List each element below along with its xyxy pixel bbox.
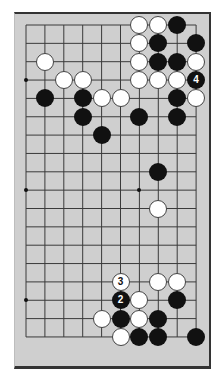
white-stone: [93, 310, 111, 328]
black-stone: 2: [112, 291, 130, 309]
white-stone: [55, 71, 73, 89]
black-stone: [187, 328, 205, 346]
black-stone: [149, 310, 167, 328]
white-stone: [168, 273, 186, 291]
white-stone: [93, 89, 111, 107]
white-stone: [36, 53, 54, 71]
go-board: 432: [14, 12, 211, 369]
black-stone: [149, 163, 167, 181]
white-stone: 3: [112, 273, 130, 291]
black-stone: [112, 310, 130, 328]
move-number-label: 4: [193, 75, 199, 85]
black-stone: [168, 53, 186, 71]
black-stone: [93, 126, 111, 144]
white-stone: [112, 328, 130, 346]
black-stone: [168, 108, 186, 126]
white-stone: [149, 200, 167, 218]
white-stone: [130, 310, 148, 328]
white-stone: [130, 53, 148, 71]
white-stone: [74, 71, 92, 89]
white-stone: [187, 53, 205, 71]
black-stone: [149, 53, 167, 71]
black-stone: [74, 108, 92, 126]
move-number-label: 3: [118, 277, 124, 287]
white-stone: [112, 89, 130, 107]
move-number-label: 2: [118, 295, 124, 305]
black-stone: [74, 89, 92, 107]
